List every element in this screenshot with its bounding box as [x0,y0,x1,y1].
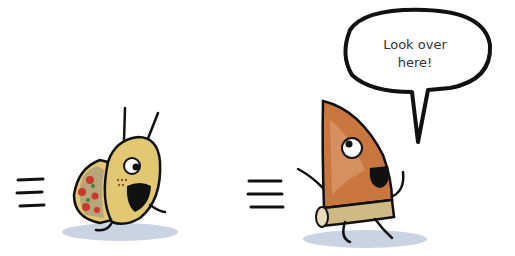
taco-shadow [62,223,178,241]
pizza-shadow [303,230,427,248]
pizza-character [298,101,403,242]
taco-character [74,108,165,230]
taco-speed-lines-icon [17,179,44,206]
speech-bubble-text: Look over here! [360,36,470,72]
pizza-speed-lines-icon [248,181,283,207]
speech-line-1: Look over [360,36,470,54]
speech-bubble [345,10,490,142]
illustration: Look over here! [0,0,515,256]
speech-line-2: here! [360,54,470,72]
